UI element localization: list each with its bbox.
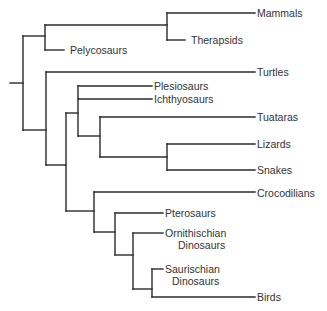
label-text: Mammals [257,7,303,19]
label-text: Ornithischian [165,227,226,239]
label-saurischian-dinosaurs: Saurischian [165,263,220,275]
label-text: Saurischian [165,263,220,275]
label-mammals: Mammals [257,7,303,19]
label-text: Dinosaurs [172,275,219,287]
label-pelycosaurs: Pelycosaurs [70,44,127,56]
label-text: Dinosaurs [178,239,225,251]
label-pterosaurs: Pterosaurs [165,207,216,219]
label-therapsids: Therapsids [191,34,243,46]
label-ornithischian-dinosaurs-line2: Dinosaurs [178,239,225,251]
label-snakes: Snakes [257,164,292,176]
label-text: Birds [257,291,281,303]
label-plesiosaurs: Plesiosaurs [154,80,208,92]
label-text: Turtles [257,66,289,78]
cladogram-branches [0,0,327,311]
label-text: Pterosaurs [165,207,216,219]
label-ornithischian-dinosaurs: Ornithischian [165,227,226,239]
label-text: Lizards [257,138,291,150]
label-text: Crocodilians [257,187,315,199]
label-ichthyosaurs: Ichthyosaurs [154,93,214,105]
label-text: Ichthyosaurs [154,93,214,105]
label-turtles: Turtles [257,66,289,78]
label-text: Pelycosaurs [70,44,127,56]
label-text: Tuataras [257,111,298,123]
label-text: Plesiosaurs [154,80,208,92]
label-tuataras: Tuataras [257,111,298,123]
label-text: Snakes [257,164,292,176]
label-birds: Birds [257,291,281,303]
label-crocodilians: Crocodilians [257,187,315,199]
label-saurischian-dinosaurs-line2: Dinosaurs [172,275,219,287]
label-lizards: Lizards [257,138,291,150]
label-text: Therapsids [191,34,243,46]
